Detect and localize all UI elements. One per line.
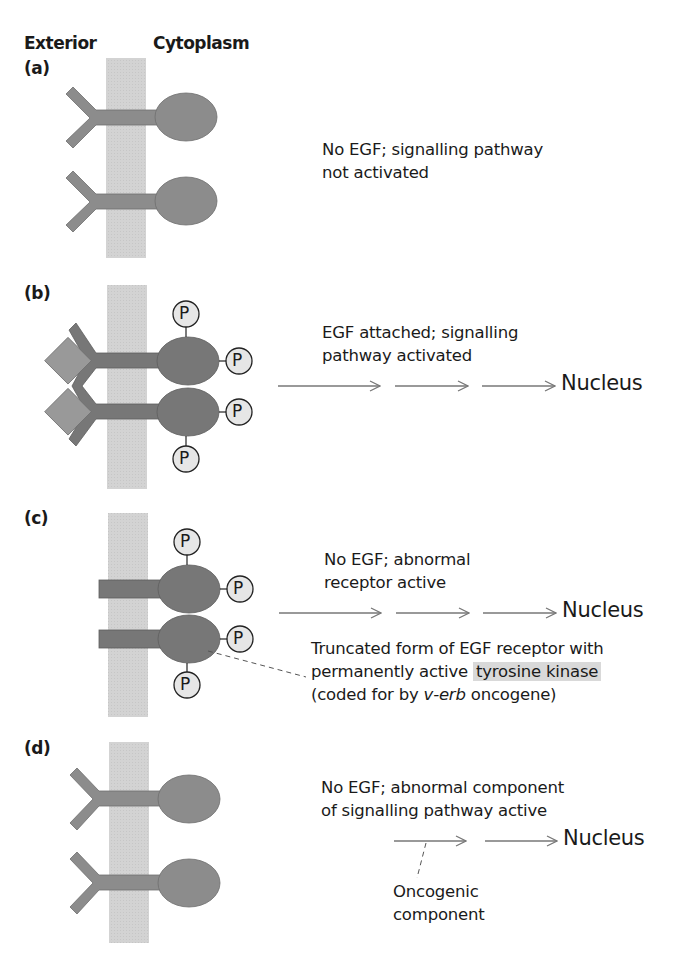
caption-line: of signalling pathway active	[321, 799, 564, 822]
phosphate-group	[173, 301, 252, 472]
annotation-line: permanently active tyrosine kinase	[311, 660, 604, 683]
membrane-a	[106, 58, 146, 258]
caption-d: No EGF; abnormal component of signalling…	[321, 776, 564, 822]
caption-line: pathway activated	[322, 344, 518, 367]
phosphate-label: P	[179, 303, 189, 323]
nucleus-label-c: Nucleus	[562, 598, 643, 622]
annotation-c: Truncated form of EGF receptor with perm…	[311, 637, 604, 706]
caption-a: No EGF; signalling pathway not activated	[322, 138, 543, 184]
nucleus-label-d: Nucleus	[563, 826, 644, 850]
phosphate-label: P	[232, 401, 242, 421]
phosphate-label: P	[180, 674, 190, 694]
caption-line: not activated	[322, 161, 543, 184]
phosphate-label: P	[232, 350, 242, 370]
annotation-leader-d	[417, 843, 426, 878]
caption-c: No EGF; abnormal receptor active	[324, 548, 470, 594]
phosphate-label: P	[179, 448, 189, 468]
annotation-line: Truncated form of EGF receptor with	[311, 637, 604, 660]
annotation-line: component	[393, 903, 485, 926]
highlight-tyrosine-kinase: tyrosine kinase	[473, 662, 601, 681]
nucleus-label-b: Nucleus	[561, 371, 642, 395]
annotation-text: permanently active	[311, 662, 473, 681]
annotation-line: (coded for by v-erb oncogene)	[311, 683, 604, 706]
annotation-d: Oncogenic component	[393, 880, 485, 926]
caption-line: No EGF; signalling pathway	[322, 138, 543, 161]
caption-line: receptor active	[324, 571, 470, 594]
caption-line: No EGF; abnormal	[324, 548, 470, 571]
caption-b: EGF attached; signalling pathway activat…	[322, 321, 518, 367]
phosphate-label: P	[180, 531, 190, 551]
caption-line: EGF attached; signalling	[322, 321, 518, 344]
gene-name: v-erb	[424, 685, 466, 704]
membrane-c	[108, 513, 148, 717]
annotation-line: Oncogenic	[393, 880, 485, 903]
phosphate-label: P	[233, 628, 243, 648]
phosphate-label: P	[233, 578, 243, 598]
membrane-d	[109, 742, 149, 943]
annotation-leader-c	[208, 651, 306, 677]
caption-line: No EGF; abnormal component	[321, 776, 564, 799]
annotation-text: (coded for by	[311, 685, 424, 704]
annotation-text: oncogene)	[466, 685, 557, 704]
phosphate-group	[174, 529, 253, 698]
membrane-b	[107, 285, 147, 489]
